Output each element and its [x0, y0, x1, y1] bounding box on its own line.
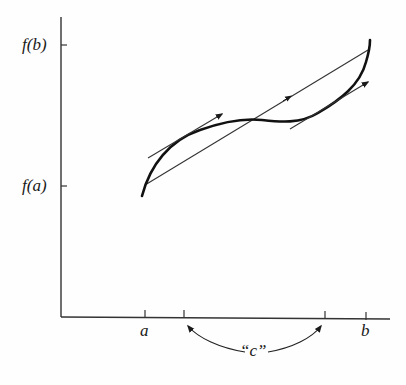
fb-label-text: f(b) [22, 35, 47, 54]
mvt-diagram: f(b) f(a) a b “c” [0, 0, 406, 385]
fa-label: f(a) [22, 177, 47, 194]
b-label: b [361, 322, 370, 339]
fa-label-text: f(a) [22, 176, 47, 195]
b-label-text: b [361, 321, 370, 340]
c-indicator-arc-right [268, 326, 321, 352]
diagram-graphics [0, 0, 406, 385]
secant-line [145, 50, 368, 185]
x-axis [61, 317, 390, 319]
a-label: a [140, 322, 149, 339]
c-indicator-arc [188, 326, 245, 352]
secant-arrow-icon [283, 97, 289, 101]
c-label: “c” [240, 342, 266, 359]
a-label-text: a [140, 321, 149, 340]
fb-label: f(b) [22, 36, 47, 53]
c-label-text: “c” [240, 341, 266, 360]
tangent-line-2 [290, 82, 368, 129]
tangent-line-1 [148, 114, 222, 158]
